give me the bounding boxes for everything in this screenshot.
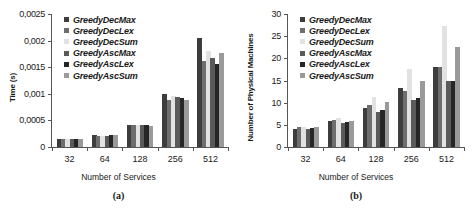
bar-GreedyAscSum-64 (113, 135, 118, 147)
panel-b-x-tick-mark (429, 147, 430, 151)
panel-b-x-tick-label-512: 512 (429, 154, 464, 164)
legend-label: GreedyDecSum (73, 37, 138, 47)
legend-swatch-icon (64, 17, 69, 22)
panel-b-y-tick-mark (284, 36, 288, 37)
panel-a-x-tick-mark (87, 147, 88, 151)
panel-a-x-tick-label-64: 64 (87, 154, 122, 164)
legend-swatch-icon (64, 73, 69, 78)
bar-GreedyAscSum-64 (349, 121, 354, 147)
legend-swatch-icon (300, 28, 305, 33)
legend-label: GreedyDecMax (73, 15, 136, 25)
legend-swatch-icon (300, 39, 305, 44)
legend-item-GreedyAscLex[interactable]: GreedyAscLex (64, 59, 138, 70)
legend-swatch-icon (300, 62, 305, 67)
legend-label: GreedyAscMax (73, 48, 136, 58)
panel-b-y-tick-mark (284, 103, 288, 104)
panel-b-y-tick-label: 20 (272, 53, 281, 63)
legend-swatch-icon (300, 51, 305, 56)
legend-item-GreedyDecMax[interactable]: GreedyDecMax (64, 14, 138, 25)
panel-a-x-tick-mark (158, 147, 159, 151)
panel-b-x-tick-label-64: 64 (323, 154, 358, 164)
panel-a-y-tick-mark (48, 120, 52, 121)
bar-GreedyAscSum-128 (385, 102, 390, 147)
legend-swatch-icon (64, 51, 69, 56)
legend-item-GreedyAscMax[interactable]: GreedyAscMax (300, 48, 374, 59)
panel-b-y-tick-mark (284, 58, 288, 59)
legend-label: GreedyAscSum (309, 71, 374, 81)
panel-b-caption: (b) (237, 190, 475, 201)
panel-b-y-axis-title: Number of Physical Machines (246, 20, 255, 155)
legend-label: GreedyDecLex (309, 26, 370, 36)
panel-b-x-axis-title: Number of Services (237, 172, 475, 182)
legend-item-GreedyAscLex[interactable]: GreedyAscLex (300, 59, 374, 70)
panel-a-y-tick-label: 0,001 (24, 89, 45, 99)
panel-a-x-tick-label-128: 128 (122, 154, 157, 164)
legend-label: GreedyAscMax (309, 48, 372, 58)
bar-GreedyAscSum-32 (314, 127, 319, 147)
panel-b-y-tick-label: 0 (276, 142, 281, 152)
legend-label: GreedyDecMax (309, 15, 372, 25)
panel-b-y-tick-mark (284, 125, 288, 126)
bar-GreedyAscSum-512 (219, 53, 224, 147)
legend-item-GreedyDecLex[interactable]: GreedyDecLex (64, 25, 138, 36)
panel-b-y-tick-label: 15 (272, 76, 281, 86)
panel-a-x-tick-mark (193, 147, 194, 151)
legend-label: GreedyDecLex (73, 26, 134, 36)
legend-swatch-icon (64, 62, 69, 67)
panel-a-y-tick-mark (48, 94, 52, 95)
panel-a-y-tick-label: 0,0025 (19, 9, 45, 19)
panel-a-y-tick-mark (48, 67, 52, 68)
bar-GreedyAscSum-32 (78, 139, 83, 147)
panel-b-x-axis-line (287, 147, 465, 148)
figure-two-panel-bar-charts: Time (s) 00,00050,0010,00150,0020,002532… (0, 0, 475, 210)
legend-label: GreedyDecSum (309, 37, 374, 47)
legend-item-GreedyDecLex[interactable]: GreedyDecLex (300, 25, 374, 36)
panel-b-y-tick-mark (284, 14, 288, 15)
legend-swatch-icon (300, 73, 305, 78)
panel-a-x-tick-mark (52, 147, 53, 151)
panel-a-y-tick-label: 0,0005 (19, 115, 45, 125)
bar-GreedyAscSum-512 (455, 47, 460, 147)
legend-item-GreedyAscSum[interactable]: GreedyAscSum (300, 70, 374, 81)
legend-swatch-icon (64, 28, 69, 33)
panel-a-legend: GreedyDecMaxGreedyDecLexGreedyDecSumGree… (64, 14, 138, 81)
panel-a-x-axis-line (51, 147, 229, 148)
legend-item-GreedyDecSum[interactable]: GreedyDecSum (300, 36, 374, 47)
legend-label: GreedyAscLex (73, 59, 134, 69)
panel-a-y-axis-title: Time (s) (8, 58, 17, 118)
legend-item-GreedyDecSum[interactable]: GreedyDecSum (64, 36, 138, 47)
panel-a-y-axis-line (51, 14, 52, 148)
legend-item-GreedyAscMax[interactable]: GreedyAscMax (64, 48, 138, 59)
bar-GreedyAscSum-256 (420, 81, 425, 148)
panel-b-x-tick-mark (394, 147, 395, 151)
panel-a-x-tick-label-256: 256 (158, 154, 193, 164)
legend-swatch-icon (64, 39, 69, 44)
legend-swatch-icon (300, 17, 305, 22)
panel-b-legend: GreedyDecMaxGreedyDecLexGreedyDecSumGree… (300, 14, 374, 81)
panel-b-x-tick-label-128: 128 (358, 154, 393, 164)
panel-a-y-tick-label: 0,0015 (19, 62, 45, 72)
panel-a-x-tick-label-32: 32 (52, 154, 87, 164)
legend-label: GreedyAscSum (73, 71, 138, 81)
panel-b-x-tick-mark (288, 147, 289, 151)
panel-b-y-tick-label: 10 (272, 98, 281, 108)
panel-a-x-axis-title: Number of Services (0, 172, 237, 182)
panel-a-y-tick-label: 0 (40, 142, 45, 152)
chart-panel-a: Time (s) 00,00050,0010,00150,0020,002532… (0, 0, 237, 210)
bar-GreedyAscSum-256 (184, 100, 189, 147)
panel-a-x-tick-mark (122, 147, 123, 151)
bar-GreedyAscSum-128 (149, 126, 154, 147)
chart-panel-b: Number of Physical Machines 051015202530… (237, 0, 475, 210)
panel-b-y-tick-label: 5 (276, 120, 281, 130)
panel-b-x-tick-label-256: 256 (394, 154, 429, 164)
panel-a-y-tick-mark (48, 41, 52, 42)
legend-item-GreedyDecMax[interactable]: GreedyDecMax (300, 14, 374, 25)
legend-label: GreedyAscLex (309, 59, 370, 69)
legend-item-GreedyAscSum[interactable]: GreedyAscSum (64, 70, 138, 81)
panel-a-x-tick-mark (228, 147, 229, 151)
panel-a-x-tick-label-512: 512 (193, 154, 228, 164)
panel-a-y-tick-label: 0,002 (24, 36, 45, 46)
panel-b-y-tick-mark (284, 81, 288, 82)
panel-b-x-tick-mark (323, 147, 324, 151)
panel-b-x-tick-label-32: 32 (288, 154, 323, 164)
